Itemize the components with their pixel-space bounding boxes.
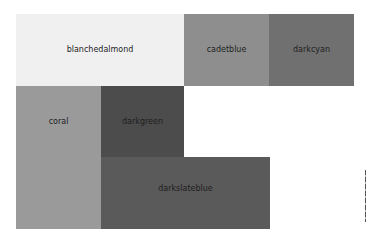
treemap-tile-blanchedalmond: blanchedalmond	[16, 14, 184, 86]
tile-label: cadetblue	[184, 45, 269, 55]
tile-label: darkcyan	[269, 45, 354, 55]
tile-label: blanchedalmond	[16, 45, 184, 55]
tile-label: coral	[16, 117, 101, 127]
treemap-tile-darkslateblue: darkslateblue	[101, 157, 270, 229]
edge-line	[365, 170, 366, 222]
treemap-tile-coral: coral	[16, 86, 101, 229]
treemap-tile-darkcyan: darkcyan	[269, 14, 354, 86]
treemap-tile-darkgreen: darkgreen	[101, 86, 184, 157]
tile-label: darkgreen	[101, 117, 184, 127]
tile-label: darkslateblue	[101, 184, 270, 194]
treemap-tile-cadetblue: cadetblue	[184, 14, 269, 86]
